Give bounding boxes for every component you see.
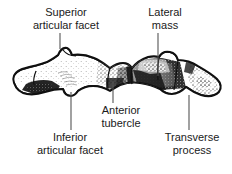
label-lateral-mass: Lateral mass	[130, 6, 200, 31]
label-transverse-process: Transverse process	[152, 131, 232, 156]
label-inferior-articular-facet: Inferior articular facet	[18, 131, 122, 156]
label-superior-articular-facet: Superior articular facet	[17, 6, 115, 31]
anatomical-figure: Superior articular facet Lateral mass An…	[0, 0, 232, 174]
bone-shading	[13, 48, 220, 96]
label-anterior-tubercle: Anterior tubercle	[84, 104, 158, 129]
